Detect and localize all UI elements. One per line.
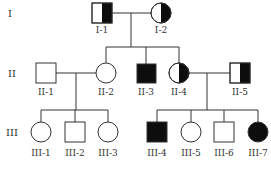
- individual-ii-5: II-5: [230, 63, 250, 97]
- male-symbol: [214, 122, 234, 142]
- individual-iii-5: III-5: [181, 122, 201, 158]
- individual-label: III-4: [147, 148, 167, 158]
- individual-iii-6: III-6: [214, 122, 234, 158]
- individual-iii-4: III-4: [147, 122, 167, 158]
- individual-iii-1: III-1: [31, 122, 51, 158]
- individual-ii-2: II-2: [96, 63, 116, 97]
- individual-label: II-3: [138, 87, 154, 97]
- affected-half-fill: [102, 3, 112, 23]
- individual-label: III-1: [31, 148, 50, 158]
- individual-label: III-2: [65, 148, 84, 158]
- female-symbol: [98, 122, 118, 142]
- female-symbol-affected: [248, 122, 268, 142]
- individual-iii-2: III-2: [65, 122, 85, 158]
- individual-ii-4: II-4: [169, 63, 189, 97]
- individual-label: III-7: [248, 148, 268, 158]
- generation-label-iii: III: [6, 127, 18, 138]
- individual-label: III-3: [98, 148, 118, 158]
- individual-iii-3: III-3: [98, 122, 118, 158]
- female-symbol: [31, 122, 51, 142]
- individual-ii-3: II-3: [137, 64, 156, 97]
- male-symbol-affected: [137, 64, 156, 83]
- individual-label: II-4: [171, 87, 187, 97]
- individual-i-1: I-1: [92, 3, 112, 35]
- male-symbol: [36, 63, 56, 83]
- generation-label-i: I: [8, 8, 12, 19]
- individual-label: III-6: [214, 148, 234, 158]
- female-symbol: [181, 122, 201, 142]
- individual-label: II-1: [38, 87, 54, 97]
- individual-i-2: I-2: [151, 3, 171, 35]
- individual-label: II-2: [98, 87, 114, 97]
- individual-label: II-5: [232, 87, 248, 97]
- individual-label: I-2: [155, 25, 167, 35]
- individual-ii-1: II-1: [36, 63, 56, 97]
- individual-iii-7: III-7: [248, 122, 268, 158]
- affected-half-fill: [179, 63, 189, 83]
- female-symbol: [96, 63, 116, 83]
- male-symbol-affected: [147, 122, 167, 142]
- individual-label: I-1: [96, 25, 108, 35]
- generation-label-ii: II: [8, 68, 16, 79]
- affected-half-fill: [240, 63, 250, 83]
- pedigree-chart: I II III I-1 I-2 II-1 II-2 II-3: [0, 0, 271, 171]
- individual-label: III-5: [181, 148, 201, 158]
- male-symbol: [65, 122, 85, 142]
- affected-half-fill: [161, 3, 171, 23]
